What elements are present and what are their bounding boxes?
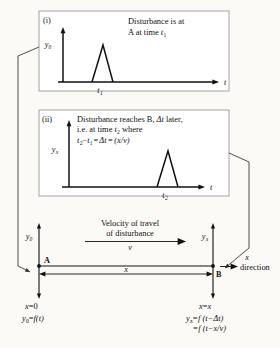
point-a-label: A xyxy=(44,256,50,265)
point-b-label: B xyxy=(216,270,222,279)
panel-i-caption-line1: Disturbance is at xyxy=(128,17,185,26)
panel-i-caption-line2: A at time t1 xyxy=(128,28,166,38)
point-a-marker xyxy=(37,264,41,268)
velocity-caption-line1: Velocity of travel xyxy=(101,219,160,228)
panel-ii-equation: t2−t1=Δt=(x/v) xyxy=(77,136,130,146)
distance-arrowhead-left xyxy=(39,272,45,277)
right-equation-displacement-alt: =f (t−x/v) xyxy=(193,324,226,333)
right-equation-displacement: yx=f (t−Δt) xyxy=(185,314,223,324)
y-right-label: yx xyxy=(201,232,209,242)
velocity-arrowhead xyxy=(178,238,186,245)
point-b-vertical-down-arrowhead xyxy=(211,293,215,299)
x-direction-label-bottom: direction xyxy=(240,263,271,272)
velocity-caption-line2: of disturbance xyxy=(106,229,154,238)
x-direction-label-top: x xyxy=(244,253,249,262)
velocity-symbol: v xyxy=(128,243,132,252)
distance-label: x xyxy=(123,265,128,274)
left-equation-position: x=0 xyxy=(24,302,38,311)
point-a-vertical-up-arrowhead xyxy=(37,223,41,229)
point-b-marker xyxy=(211,264,215,268)
panel-ii-number: (ii) xyxy=(42,115,52,124)
point-b-vertical-up-arrowhead xyxy=(211,223,215,229)
diagram-canvas: y0 t t1 (i) Disturbance is at A at time … xyxy=(0,0,280,348)
right-equation-position: x=x xyxy=(198,302,211,311)
panel-ii-caption-line2: i.e. at time t2 where xyxy=(77,125,143,135)
x-direction-arrowhead xyxy=(231,264,238,270)
left-equation-displacement: y0=f(t) xyxy=(21,314,44,324)
y-left-label: y0 xyxy=(25,232,33,242)
point-a-vertical-down-arrowhead xyxy=(37,293,41,299)
figure-root: y0 t t1 (i) Disturbance is at A at time … xyxy=(0,0,280,348)
panel-i-number: (i) xyxy=(43,16,51,25)
distance-arrowhead-right xyxy=(207,272,213,277)
panel-ii-caption-line1: Disturbance reaches B, Δt later, xyxy=(77,115,183,124)
